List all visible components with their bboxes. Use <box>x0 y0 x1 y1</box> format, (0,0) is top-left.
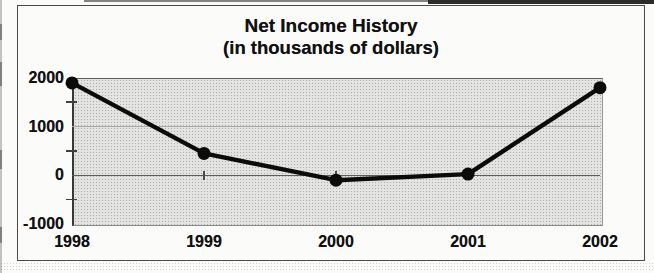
y-axis-tick-label: 0 <box>8 165 64 185</box>
scan-artifact-left-mark <box>0 227 2 243</box>
scan-artifact-left-mark <box>0 24 2 40</box>
chart-title: Net Income History <box>17 14 645 37</box>
scanned-chart-page: Net Income History (in thousands of doll… <box>0 0 654 273</box>
net-income-line-series <box>72 78 600 224</box>
chart-subtitle: (in thousands of dollars) <box>17 37 645 59</box>
data-point-1998 <box>66 76 79 89</box>
data-point-1999 <box>198 147 211 160</box>
x-axis-tick-label: 1998 <box>36 233 108 251</box>
data-point-2001 <box>462 168 475 181</box>
data-point-2000 <box>330 174 343 187</box>
scan-artifact-top-line-dark <box>428 0 654 4</box>
series-line <box>72 83 600 180</box>
x-axis-tick-label: 2000 <box>300 233 372 251</box>
chart-title-block: Net Income History (in thousands of doll… <box>17 14 645 59</box>
y-axis-tick-label: -1000 <box>8 214 64 234</box>
scan-artifact-bottom-band <box>0 262 654 271</box>
scan-artifact-left-mark <box>0 150 2 169</box>
x-axis-tick-label: 2002 <box>564 233 636 251</box>
y-axis-tick-label: 1000 <box>8 117 64 137</box>
scan-artifact-left-mark <box>0 62 2 86</box>
x-axis-tick-label: 1999 <box>168 233 240 251</box>
data-point-2002 <box>594 81 607 94</box>
x-axis-tick-label: 2001 <box>432 233 504 251</box>
y-axis-tick-label: 2000 <box>8 68 64 88</box>
